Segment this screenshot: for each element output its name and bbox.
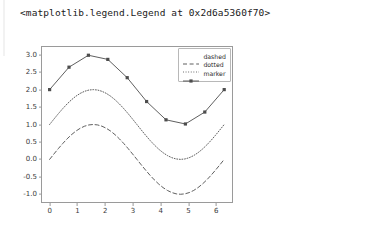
y-tick-mark — [39, 194, 42, 195]
legend-label-dotted: dotted — [203, 61, 223, 69]
matplotlib-figure: -1.0-0.50.00.51.01.52.02.53.0 0123456 da… — [14, 34, 354, 224]
legend-label-dashed: dashed — [203, 53, 226, 61]
series-marker-marker — [126, 76, 129, 79]
y-tick-mark — [39, 142, 42, 143]
legend-entry-marker: marker — [182, 70, 226, 78]
series-line-dotted — [50, 90, 225, 160]
x-tick-label: 3 — [131, 207, 135, 215]
legend-sample-marker — [182, 70, 200, 78]
x-tick-label: 0 — [47, 207, 51, 215]
x-tick-mark — [105, 203, 106, 206]
x-tick-label: 6 — [214, 207, 218, 215]
legend-entry-dotted: dotted — [182, 61, 226, 69]
x-tick-mark — [133, 203, 134, 206]
plot-axes: -1.0-0.50.00.51.01.52.02.53.0 0123456 da… — [41, 46, 233, 203]
series-marker-marker — [184, 122, 187, 125]
y-tick-label: 0.0 — [26, 155, 37, 163]
y-tick-label: 1.0 — [26, 121, 37, 129]
x-tick-label: 2 — [103, 207, 107, 215]
y-tick-label: 1.5 — [26, 103, 37, 111]
series-marker-marker — [223, 88, 226, 91]
y-tick-mark — [39, 107, 42, 108]
legend-entry-dashed: dashed — [182, 53, 226, 61]
y-tick-mark — [39, 124, 42, 125]
x-tick-mark — [49, 203, 50, 206]
series-marker-marker — [164, 118, 167, 121]
series-marker-marker — [87, 54, 90, 57]
legend-label-marker: marker — [203, 70, 225, 78]
x-tick-mark — [188, 203, 189, 206]
legend-sample-dotted — [182, 61, 200, 69]
series-marker-marker — [145, 100, 148, 103]
y-tick-mark — [39, 159, 42, 160]
y-tick-mark — [39, 89, 42, 90]
series-marker-marker — [67, 66, 70, 69]
series-marker-marker — [48, 88, 51, 91]
y-tick-mark — [39, 72, 42, 73]
x-tick-mark — [160, 203, 161, 206]
output-repr-text: <matplotlib.legend.Legend at 0x2d6a5360f… — [20, 6, 270, 20]
y-tick-label: -1.0 — [23, 190, 37, 198]
y-tick-label: -0.5 — [23, 173, 37, 181]
series-line-dashed — [50, 125, 225, 195]
series-marker-marker — [203, 110, 206, 113]
y-tick-label: 2.0 — [26, 86, 37, 94]
notebook-cell-gutter — [3, 0, 5, 56]
y-tick-label: 0.5 — [26, 138, 37, 146]
legend-sample-dashed — [182, 53, 200, 61]
x-tick-label: 5 — [186, 207, 190, 215]
y-tick-label: 3.0 — [26, 51, 37, 59]
y-tick-mark — [39, 54, 42, 55]
x-tick-label: 1 — [75, 207, 79, 215]
y-tick-label: 2.5 — [26, 68, 37, 76]
legend[interactable]: dasheddottedmarker — [178, 48, 231, 82]
x-tick-mark — [216, 203, 217, 206]
series-marker-marker — [106, 58, 109, 61]
x-tick-mark — [77, 203, 78, 206]
x-tick-label: 4 — [159, 207, 163, 215]
y-tick-mark — [39, 176, 42, 177]
